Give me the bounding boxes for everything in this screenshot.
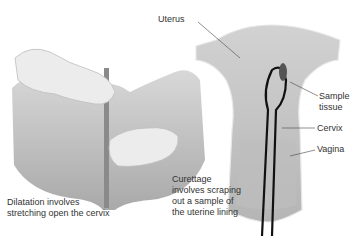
caption-dilatation-line2: stretching open the cervix (7, 208, 110, 219)
label-sample-line1: Sample (319, 91, 350, 102)
caption-curettage-line2: involves scraping (172, 185, 241, 196)
caption-curettage-line1: Curettage (172, 174, 212, 185)
label-uterus: Uterus (158, 14, 185, 25)
sample-tissue-shape (279, 63, 287, 81)
label-sample-line2: tissue (319, 102, 343, 113)
caption-curettage-line3: out a sample of (172, 196, 234, 207)
caption-curettage-line4: the uterine lining (172, 207, 238, 218)
caption-dilatation-line1: Dilatation involves (7, 197, 80, 208)
label-cervix: Cervix (317, 123, 343, 134)
label-vagina: Vagina (317, 144, 344, 155)
